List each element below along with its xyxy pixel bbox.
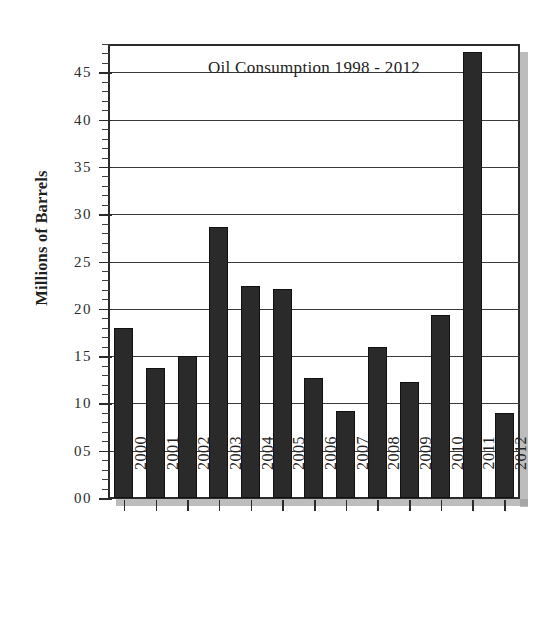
y-axis-tick-label: 40 bbox=[48, 111, 92, 128]
y-axis-tick-label: 30 bbox=[48, 206, 92, 223]
y-axis-tick-label: 00 bbox=[48, 490, 92, 507]
y-axis-tick-label: 15 bbox=[48, 348, 92, 365]
x-axis-tick-label-2012: 2012 bbox=[512, 436, 530, 516]
x-axis-tick bbox=[282, 500, 284, 511]
x-axis-tick-label-2004: 2004 bbox=[259, 436, 277, 516]
chart-title: Oil Consumption 1998 - 2012 bbox=[108, 58, 520, 78]
y-axis-tick-label: 35 bbox=[48, 158, 92, 175]
x-axis-tick bbox=[219, 500, 221, 511]
bar-2011 bbox=[463, 52, 482, 498]
y-axis-tick-label: 45 bbox=[48, 64, 92, 81]
x-axis-tick bbox=[504, 500, 506, 511]
x-axis-tick bbox=[124, 500, 126, 511]
y-axis-tick-label: 05 bbox=[48, 442, 92, 459]
x-axis-tick bbox=[346, 500, 348, 511]
x-axis-tick-label-2000: 2000 bbox=[132, 436, 150, 516]
y-axis-tick-label: 20 bbox=[48, 300, 92, 317]
x-axis-tick-label-2003: 2003 bbox=[227, 436, 245, 516]
bar-2000 bbox=[114, 328, 133, 498]
x-axis-tick-label-2001: 2001 bbox=[164, 436, 182, 516]
x-axis-tick bbox=[314, 500, 316, 511]
x-axis-tick-label-2009: 2009 bbox=[417, 436, 435, 516]
x-axis-tick-label-2005: 2005 bbox=[290, 436, 308, 516]
x-axis-tick bbox=[377, 500, 379, 511]
x-axis-tick bbox=[472, 500, 474, 511]
y-axis-title: Millions of Barrels bbox=[32, 108, 52, 368]
x-axis-tick-label-2006: 2006 bbox=[322, 436, 340, 516]
x-axis-tick-label-2002: 2002 bbox=[195, 436, 213, 516]
x-axis-tick-label-2011: 2011 bbox=[480, 436, 498, 516]
x-axis-tick bbox=[187, 500, 189, 511]
x-axis-tick bbox=[251, 500, 253, 511]
x-axis-tick-label-2008: 2008 bbox=[385, 436, 403, 516]
x-axis-tick bbox=[156, 500, 158, 511]
y-axis-tick-label: 25 bbox=[48, 253, 92, 270]
x-axis-tick-label-2010: 2010 bbox=[449, 436, 467, 516]
bars-layer bbox=[108, 44, 520, 499]
x-axis-tick bbox=[441, 500, 443, 511]
bar-chart-figure: Millions of Barrels 00051015202530354045… bbox=[0, 0, 551, 622]
y-axis-tick-label: 10 bbox=[48, 395, 92, 412]
x-axis-tick bbox=[409, 500, 411, 511]
x-axis-tick-label-2007: 2007 bbox=[354, 436, 372, 516]
